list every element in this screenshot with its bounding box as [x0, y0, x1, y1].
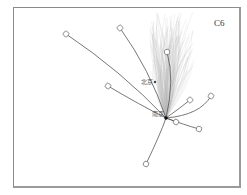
endpoint-marker-icon [143, 161, 150, 168]
endpoint-marker-icon [164, 49, 170, 55]
flow-line [146, 118, 166, 164]
endpoint-marker-icon [117, 25, 124, 32]
endpoint-marker-icon [63, 31, 70, 38]
hub-node [164, 116, 168, 120]
endpoint-marker-icon [208, 93, 215, 100]
endpoint-markers [63, 25, 215, 168]
endpoint-marker-icon [173, 119, 180, 126]
endpoint-marker-icon [196, 126, 202, 132]
nanjing-label: 南京 [152, 109, 164, 118]
panel-label: C6 [214, 18, 225, 28]
endpoint-marker-icon [186, 96, 193, 103]
endpoint-marker-icon [105, 83, 112, 90]
flow-diagram [0, 0, 247, 195]
beijing-point [154, 81, 156, 83]
beijing-label: 北京 [141, 77, 153, 86]
